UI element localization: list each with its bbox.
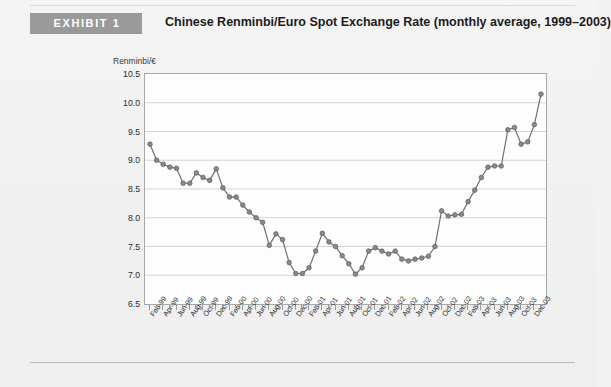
x-minor-tick-mark — [328, 305, 329, 308]
bottom-divider — [30, 362, 575, 363]
x-minor-tick-mark — [474, 305, 475, 308]
y-tick-label: 8.5 — [106, 184, 140, 194]
x-minor-tick-mark — [301, 305, 302, 308]
x-minor-tick-mark — [514, 305, 515, 308]
x-minor-tick-mark — [262, 305, 263, 308]
x-minor-tick-mark — [156, 305, 157, 308]
x-minor-tick-mark — [195, 305, 196, 308]
x-minor-tick-mark — [500, 305, 501, 308]
x-minor-tick-mark — [315, 305, 316, 308]
x-minor-tick-mark — [235, 305, 236, 308]
y-axis-ticks: 10.510.09.59.08.58.07.57.06.5 — [100, 73, 140, 305]
y-tick-label: 7.0 — [106, 270, 140, 280]
y-tick-label: 7.5 — [106, 242, 140, 252]
x-minor-tick-mark — [169, 305, 170, 308]
x-minor-tick-mark — [275, 305, 276, 308]
x-minor-tick-mark — [487, 305, 488, 308]
x-minor-tick-mark — [421, 305, 422, 308]
x-minor-tick-mark — [341, 305, 342, 308]
x-minor-tick-mark — [222, 305, 223, 308]
x-minor-tick-mark — [288, 305, 289, 308]
x-minor-tick-mark — [408, 305, 409, 308]
x-minor-tick-mark — [248, 305, 249, 308]
x-minor-tick-mark — [209, 305, 210, 308]
x-minor-tick-mark — [368, 305, 369, 308]
y-tick-label: 10.5 — [106, 69, 140, 79]
x-minor-tick-mark — [527, 305, 528, 308]
x-minor-tick-mark — [461, 305, 462, 308]
x-minor-tick-mark — [354, 305, 355, 308]
plot-area — [144, 73, 547, 305]
y-tick-label: 9.0 — [106, 155, 140, 165]
y-tick-label: 8.0 — [106, 213, 140, 223]
y-tick-label: 9.5 — [106, 127, 140, 137]
y-tick-label: 10.0 — [106, 98, 140, 108]
x-minor-tick-mark — [447, 305, 448, 308]
y-axis-label: Renminbi/€ — [113, 56, 156, 66]
x-minor-tick-mark — [434, 305, 435, 308]
y-tick-label: 6.5 — [106, 299, 140, 309]
x-minor-tick-mark — [394, 305, 395, 308]
x-minor-tick-mark — [540, 305, 541, 308]
x-axis-ticks: Feb-99Apr-99Jun-99Aug-99Oct-99Dec-99Feb-… — [144, 305, 547, 365]
x-minor-tick-mark — [381, 305, 382, 308]
line-chart-svg — [145, 74, 546, 304]
x-minor-tick-mark — [182, 305, 183, 308]
